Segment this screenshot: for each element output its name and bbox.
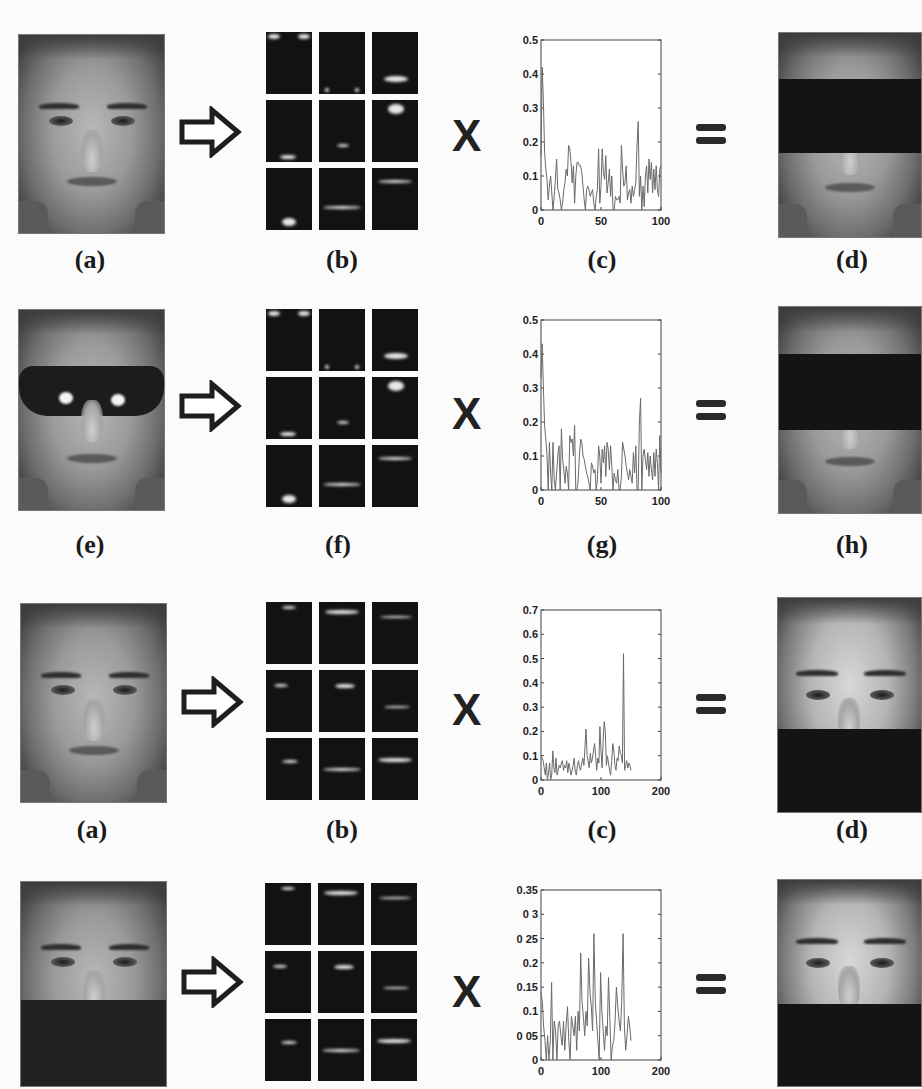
- occlusion-bar: [779, 79, 921, 153]
- svg-text:0 25: 0 25: [517, 933, 538, 945]
- input-face-image: [20, 881, 167, 1087]
- caption-chart: (g): [572, 530, 632, 560]
- basis-cell: [266, 602, 312, 664]
- svg-text:0.5: 0.5: [523, 653, 538, 665]
- output-face-image: [777, 879, 922, 1087]
- svg-text:0.1: 0.1: [523, 750, 538, 762]
- coefficient-chart: 00.10.20.30.40.5050100: [505, 30, 690, 239]
- caption-chart: (c): [572, 815, 632, 845]
- basis-cell: [319, 309, 365, 371]
- svg-text:100: 100: [652, 215, 670, 227]
- svg-text:0.2: 0.2: [523, 957, 538, 969]
- svg-text:0 05: 0 05: [517, 1030, 538, 1042]
- coefficient-chart: 00 050.10.150.20 250 30.350100200: [505, 880, 690, 1089]
- arrow-right-icon: [180, 956, 244, 1008]
- basis-cell: [319, 100, 365, 162]
- svg-text:0: 0: [538, 215, 544, 227]
- basis-cell: [266, 100, 312, 162]
- svg-text:0: 0: [538, 495, 544, 507]
- svg-text:0 3: 0 3: [523, 908, 538, 920]
- basis-cell: [371, 1019, 417, 1081]
- basis-cell: [372, 32, 418, 94]
- output-face-image: [778, 306, 922, 514]
- basis-cell: [372, 602, 418, 664]
- basis-cell: [266, 738, 312, 800]
- basis-cell: [265, 883, 311, 945]
- basis-cell: [265, 951, 311, 1013]
- caption-basis: (f): [308, 530, 368, 560]
- svg-text:0.3: 0.3: [523, 701, 538, 713]
- output-face-image: [778, 32, 922, 238]
- caption-input: (a): [62, 815, 122, 845]
- occlusion-bar: [778, 729, 921, 812]
- basis-cell: [266, 445, 312, 507]
- caption-basis: (b): [312, 245, 372, 275]
- multiply-icon: X: [452, 392, 481, 436]
- basis-cell: [319, 445, 365, 507]
- basis-cell: [319, 738, 365, 800]
- basis-cell: [372, 309, 418, 371]
- input-face-image: [18, 309, 165, 511]
- equals-icon: [696, 694, 726, 720]
- basis-cell: [319, 602, 365, 664]
- svg-text:0.1: 0.1: [523, 450, 538, 462]
- coefficient-chart: 00.10.20.30.40.5050100: [505, 310, 690, 519]
- svg-text:0: 0: [538, 1065, 544, 1077]
- basis-cell: [372, 670, 418, 732]
- multiply-icon: X: [452, 114, 481, 158]
- input-face-image: [20, 603, 167, 803]
- caption-output: (d): [822, 245, 882, 275]
- svg-text:50: 50: [595, 495, 607, 507]
- svg-text:0.3: 0.3: [523, 382, 538, 394]
- basis-cell: [372, 168, 418, 230]
- svg-text:0.1: 0.1: [523, 170, 538, 182]
- svg-text:0.3: 0.3: [523, 102, 538, 114]
- basis-images-grid: [266, 602, 418, 800]
- scarf: [21, 1000, 166, 1086]
- svg-text:0.15: 0.15: [517, 981, 538, 993]
- basis-cell: [266, 168, 312, 230]
- basis-cell: [266, 377, 312, 439]
- basis-cell: [372, 377, 418, 439]
- caption-basis: (b): [312, 815, 372, 845]
- equals-icon: [696, 974, 726, 1000]
- coefficient-chart: 00.10.20.30.40.50.60.70100200: [505, 600, 690, 809]
- caption-output: (h): [822, 530, 882, 560]
- basis-images-grid: [266, 309, 418, 507]
- svg-text:100: 100: [592, 785, 610, 797]
- multiply-icon: X: [452, 970, 481, 1014]
- caption-input: (a): [60, 245, 120, 275]
- input-face-image: [18, 34, 165, 234]
- svg-text:0.35: 0.35: [517, 884, 538, 896]
- svg-text:0.5: 0.5: [523, 34, 538, 46]
- arrow-right-icon: [180, 676, 244, 728]
- svg-text:100: 100: [592, 1065, 610, 1077]
- svg-text:50: 50: [595, 215, 607, 227]
- caption-output: (d): [822, 815, 882, 845]
- basis-cell: [319, 670, 365, 732]
- basis-cell: [266, 32, 312, 94]
- svg-text:0.6: 0.6: [523, 628, 538, 640]
- basis-cell: [265, 1019, 311, 1081]
- equals-icon: [696, 124, 726, 150]
- basis-cell: [318, 883, 364, 945]
- basis-cell: [371, 883, 417, 945]
- basis-cell: [266, 670, 312, 732]
- svg-text:0.2: 0.2: [523, 725, 538, 737]
- arrow-right-icon: [178, 106, 242, 158]
- occlusion-bar: [779, 354, 921, 430]
- output-face-image: [777, 597, 922, 813]
- svg-text:0.2: 0.2: [523, 136, 538, 148]
- basis-images-grid: [266, 32, 418, 230]
- basis-cell: [319, 32, 365, 94]
- caption-input: (e): [60, 530, 120, 560]
- basis-cell: [319, 168, 365, 230]
- basis-cell: [266, 309, 312, 371]
- arrow-right-icon: [178, 380, 242, 432]
- svg-text:0.7: 0.7: [523, 604, 538, 616]
- basis-cell: [318, 1019, 364, 1081]
- svg-text:0.5: 0.5: [523, 314, 538, 326]
- basis-cell: [318, 951, 364, 1013]
- basis-cell: [319, 377, 365, 439]
- svg-text:100: 100: [652, 495, 670, 507]
